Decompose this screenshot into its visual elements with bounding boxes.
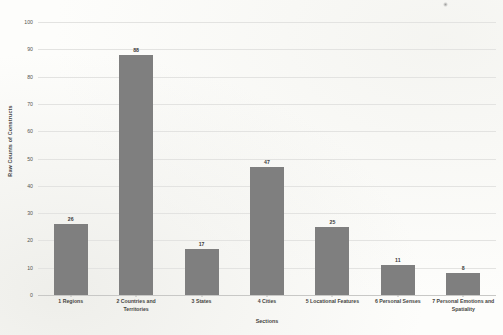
bar[interactable]: 88	[119, 55, 153, 295]
x-axis-tick-mark	[136, 295, 137, 297]
plot-area: 1009080706050403020100 2688174725118	[38, 22, 496, 295]
y-axis-tick-label: 100	[24, 19, 33, 25]
bar[interactable]: 11	[381, 265, 415, 295]
x-axis-tick-mark	[201, 295, 202, 297]
bar-slot: 8	[431, 22, 496, 295]
y-axis-tick-label: 10	[27, 265, 33, 271]
x-axis-tick-labels: 1 Regions2 Countries and Territories3 St…	[38, 298, 496, 313]
y-axis-tick-label: 90	[27, 46, 33, 52]
x-axis-tick-mark	[463, 295, 464, 297]
y-axis-title-text: Raw Counts of Constructs	[7, 105, 13, 176]
bar-value-label: 8	[462, 265, 465, 271]
y-axis-tick-label: 70	[27, 101, 33, 107]
x-axis-category-label: 2 Countries and Territories	[103, 298, 168, 313]
bar-chart: Raw Counts of Constructs 100908070605040…	[0, 0, 503, 335]
x-axis-tick-mark	[397, 295, 398, 297]
bar[interactable]: 17	[185, 249, 219, 295]
bar-value-label: 17	[199, 241, 205, 247]
bar-series: 2688174725118	[38, 22, 496, 295]
bar-slot: 88	[103, 22, 168, 295]
bar[interactable]: 8	[446, 273, 480, 295]
x-axis-category-label: 7 Personal Emotions and Spatiality	[431, 298, 496, 313]
y-axis-tick-label: 60	[27, 128, 33, 134]
x-axis-title: Sections	[38, 318, 496, 324]
y-axis-tick-label: 0	[30, 292, 33, 298]
y-axis-tick-label: 20	[27, 237, 33, 243]
bar-slot: 47	[234, 22, 299, 295]
bar-value-label: 26	[68, 216, 74, 222]
x-axis-category-label: 5 Locational Features	[300, 298, 365, 313]
x-axis-category-label: 1 Regions	[38, 298, 103, 313]
bar-slot: 26	[38, 22, 103, 295]
y-axis-tick-label: 40	[27, 183, 33, 189]
bar[interactable]: 47	[250, 167, 284, 295]
bar[interactable]: 26	[54, 224, 88, 295]
bar-value-label: 11	[395, 257, 400, 263]
x-axis-tick-mark	[332, 295, 333, 297]
bar-slot: 17	[169, 22, 234, 295]
y-axis-title: Raw Counts of Constructs	[2, 0, 18, 335]
bar-value-label: 88	[133, 47, 139, 53]
x-axis-category-label: 3 States	[169, 298, 234, 313]
y-axis-tick-label: 50	[27, 156, 33, 162]
x-axis-category-label: 6 Personal Senses	[365, 298, 430, 313]
y-axis-tick-label: 80	[27, 74, 33, 80]
x-axis-category-label: 4 Cities	[234, 298, 299, 313]
bar-value-label: 25	[330, 219, 336, 225]
bar-slot: 25	[300, 22, 365, 295]
bar-value-label: 47	[264, 159, 270, 165]
bar-slot: 11	[365, 22, 430, 295]
bar[interactable]: 25	[315, 227, 349, 295]
x-axis-tick-mark	[70, 295, 71, 297]
y-axis-tick-label: 30	[27, 210, 33, 216]
scan-artifact	[443, 2, 448, 7]
x-axis-tick-mark	[266, 295, 267, 297]
